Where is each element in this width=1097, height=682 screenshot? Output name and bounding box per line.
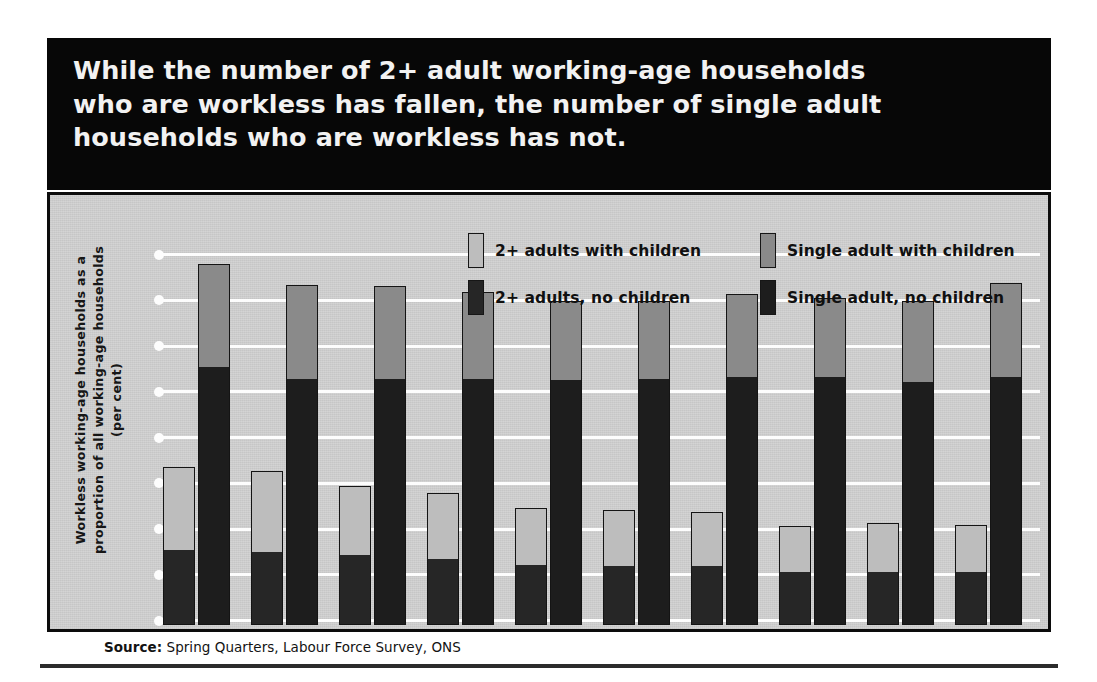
- x-tick-label-1997: 1997: [246, 629, 334, 632]
- bar-segment-with-children: [780, 527, 810, 572]
- bar-single-adult-2000: [550, 301, 582, 625]
- legend-label: 2+ adults with children: [495, 242, 701, 260]
- x-axis-tick-labels: 1996199719981999200020012002200320042005: [158, 629, 1038, 632]
- bar-segment-no-children: [604, 566, 634, 624]
- x-tick-label-2000: 2000: [510, 629, 598, 632]
- bar-segment-no-children: [692, 566, 722, 624]
- legend-label: Single adult with children: [787, 242, 1015, 260]
- x-tick-label-1996: 1996: [158, 629, 246, 632]
- bar-segment-no-children: [164, 550, 194, 624]
- bar-single-adult-1996: [198, 264, 230, 625]
- x-tick-label-2002: 2002: [686, 629, 774, 632]
- bar-segment-with-children: [516, 509, 546, 565]
- bar-pair-adults-2004: [867, 523, 899, 625]
- figure: While the number of 2+ adult working-age…: [40, 31, 1058, 646]
- bar-segment-with-children: [199, 265, 229, 367]
- bar-segment-no-children: [815, 377, 845, 624]
- page-root: While the number of 2+ adult working-age…: [0, 0, 1097, 682]
- bar-segment-no-children: [287, 379, 317, 624]
- bar-pair-adults-1999: [427, 493, 459, 625]
- source-note: Source: Spring Quarters, Labour Force Su…: [104, 639, 461, 655]
- legend-swatch-pair-dark: [468, 280, 484, 315]
- bar-segment-no-children: [551, 380, 581, 624]
- bar-segment-with-children: [375, 287, 405, 378]
- legend-item-pair-dark: 2+ adults, no children: [468, 280, 690, 315]
- bar-pair-adults-1998: [339, 486, 371, 626]
- bar-segment-with-children: [604, 511, 634, 567]
- bar-segment-no-children: [780, 572, 810, 624]
- y-axis-title-line-1: Workless working-age households as a: [72, 192, 90, 620]
- bar-pair-adults-2003: [779, 526, 811, 625]
- bar-segment-with-children: [428, 494, 458, 559]
- bar-single-adult-2003: [814, 298, 846, 625]
- bar-single-adult-2002: [726, 294, 758, 625]
- source-label: Source:: [104, 639, 162, 655]
- bar-segment-with-children: [164, 468, 194, 550]
- legend-item-single-dark: Single adult, no children: [760, 280, 1004, 315]
- x-tick-label-2005: 2005: [950, 629, 1038, 632]
- x-tick-label-1998: 1998: [334, 629, 422, 632]
- bar-pair-adults-2001: [603, 510, 635, 625]
- bar-segment-with-children: [340, 487, 370, 556]
- bar-segment-no-children: [903, 382, 933, 624]
- bar-segment-no-children: [428, 559, 458, 624]
- bar-pair-adults-1996: [163, 467, 195, 625]
- bar-segment-no-children: [463, 379, 493, 624]
- bar-segment-no-children: [956, 572, 986, 624]
- page-title: While the number of 2+ adult working-age…: [73, 54, 1025, 155]
- bar-single-adult-2004: [902, 301, 934, 625]
- x-tick-label-2003: 2003: [774, 629, 862, 632]
- bar-single-adult-1999: [462, 292, 494, 625]
- bar-segment-no-children: [991, 377, 1021, 624]
- bar-pair-adults-1997: [251, 471, 283, 625]
- bar-pair-adults-2005: [955, 525, 987, 625]
- bar-single-adult-2005: [990, 283, 1022, 625]
- legend-item-single-light: Single adult with children: [760, 233, 1015, 268]
- legend-label: Single adult, no children: [787, 289, 1004, 307]
- bar-segment-no-children: [340, 555, 370, 624]
- bar-segment-no-children: [516, 565, 546, 624]
- bar-segment-no-children: [375, 379, 405, 624]
- headline-banner: While the number of 2+ adult working-age…: [47, 38, 1051, 190]
- bar-segment-with-children: [287, 286, 317, 379]
- bar-segment-with-children: [692, 513, 722, 567]
- bar-segment-no-children: [252, 552, 282, 624]
- x-tick-label-2001: 2001: [598, 629, 686, 632]
- chart-canvas: Workless working-age households as a pro…: [50, 195, 1048, 629]
- bar-segment-with-children: [956, 526, 986, 573]
- chart-panel: Workless working-age households as a pro…: [47, 192, 1051, 632]
- bar-segment-no-children: [727, 377, 757, 624]
- bar-pair-adults-2002: [691, 512, 723, 625]
- bar-single-adult-2001: [638, 301, 670, 625]
- y-axis-title-line-3: (per cent): [108, 192, 126, 620]
- y-axis-title: Workless working-age households as a pro…: [72, 192, 112, 620]
- bar-single-adult-1997: [286, 285, 318, 625]
- bar-pair-adults-2000: [515, 508, 547, 625]
- bar-single-adult-1998: [374, 286, 406, 625]
- legend-swatch-single-light: [760, 233, 776, 268]
- bar-segment-with-children: [868, 524, 898, 572]
- y-axis-title-line-2: proportion of all working-age households: [90, 192, 108, 620]
- legend-swatch-single-dark: [760, 280, 776, 315]
- bar-segment-no-children: [639, 379, 669, 624]
- bar-segment-with-children: [727, 295, 757, 377]
- legend-swatch-pair-light: [468, 233, 484, 268]
- bar-segment-no-children: [199, 367, 229, 624]
- x-tick-label-1999: 1999: [422, 629, 510, 632]
- bottom-divider: [40, 664, 1058, 668]
- x-tick-label-2004: 2004: [862, 629, 950, 632]
- source-text: Spring Quarters, Labour Force Survey, ON…: [162, 639, 461, 655]
- bar-segment-no-children: [868, 572, 898, 624]
- bar-segment-with-children: [252, 472, 282, 552]
- legend-label: 2+ adults, no children: [495, 289, 690, 307]
- legend-item-pair-light: 2+ adults with children: [468, 233, 701, 268]
